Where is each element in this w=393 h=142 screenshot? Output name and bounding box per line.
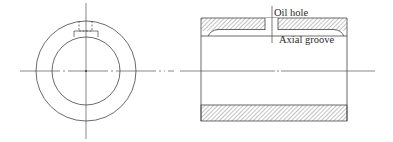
bearing-bush-drawing: Oil hole Axial groove [0,0,393,142]
sectional-view [180,6,375,121]
top-wall-left [201,18,265,31]
end-view [20,3,174,139]
axial-groove-label: Axial groove [279,35,334,46]
top-wall-right [278,18,347,31]
bottom-wall [201,105,347,121]
hidden-oil-hole [79,21,92,31]
oil-hole [265,18,278,30]
oil-hole-label: Oil hole [274,8,308,19]
drawing-canvas [0,0,393,142]
